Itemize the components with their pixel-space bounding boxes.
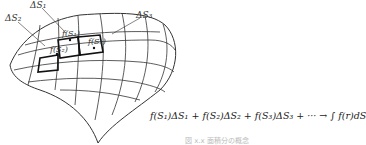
label-f-s1: f(S₁) <box>61 29 80 38</box>
label-delta-s3: ΔS₃ <box>135 10 153 20</box>
point-s1 <box>69 39 71 41</box>
label-f-s3: f(S₃) <box>87 37 106 46</box>
label-delta-s1: ΔS₁ <box>29 0 46 10</box>
label-f-s2: f(S₂) <box>49 45 68 54</box>
figure-caption: 図 x.x 面積分の概念 <box>185 135 249 145</box>
label-delta-s2: ΔS₂ <box>4 13 22 23</box>
riemann-sum-equation: f(S₁)ΔS₁ + f(S₂)ΔS₂ + f(S₃)ΔS₃ + ··· → ∫… <box>150 110 366 121</box>
point-s3 <box>93 47 95 49</box>
surface-grid-v <box>28 13 167 120</box>
